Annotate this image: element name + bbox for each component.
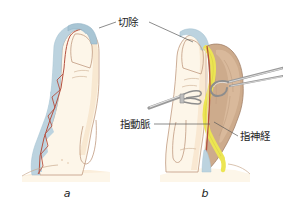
forceps-hinge-left: [180, 94, 184, 103]
resection-label: 切除: [118, 16, 139, 28]
digital-artery-label: 指動脈: [120, 118, 151, 130]
panel-a-letter: a: [64, 187, 71, 200]
panel-b-letter: b: [202, 187, 209, 200]
digital-nerve-label: 指神経: [240, 130, 271, 142]
panel-a-speck-1: [61, 159, 63, 161]
medical-figure-container: a: [0, 0, 283, 214]
digital-nerve-distal: [222, 158, 224, 170]
fingertip-flap-illustration: a: [0, 0, 283, 214]
panel-a-speck-2: [67, 162, 68, 163]
